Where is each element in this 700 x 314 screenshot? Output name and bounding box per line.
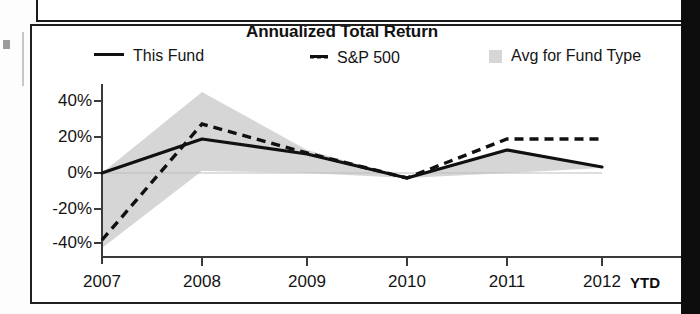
x-tick-label-2012: 2012 — [583, 272, 621, 292]
x-tick-label-2009: 2009 — [288, 272, 326, 292]
x-tick-label-2010: 2010 — [388, 272, 426, 292]
figure-page: Annualized Total Return This Fund S&P 50… — [0, 0, 700, 314]
plot-area: 40% 20% 0% -20% -40% — [32, 26, 687, 302]
chart-svg — [32, 26, 687, 302]
x-tick-label-2008: 2008 — [183, 272, 221, 292]
adjacent-panel-above — [36, 0, 688, 22]
scan-artifact-vertical-rule — [22, 32, 24, 86]
chart-frame: Annualized Total Return This Fund S&P 50… — [30, 24, 689, 304]
scan-artifact-left-margin — [3, 40, 10, 49]
x-tick-label-2007: 2007 — [83, 272, 121, 292]
scan-artifact-right-edge — [681, 0, 700, 314]
x-axis-ytd-note: YTD — [630, 274, 660, 291]
band-avg-fund-type — [102, 92, 602, 248]
x-tick-label-2011: 2011 — [489, 272, 526, 292]
